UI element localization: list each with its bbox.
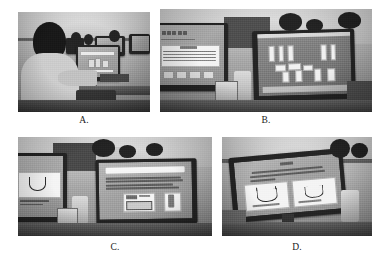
panel-d-caption: D. bbox=[222, 242, 372, 252]
screen-right bbox=[99, 161, 193, 220]
panel-b bbox=[160, 9, 372, 112]
screen-left bbox=[160, 25, 224, 85]
student-head bbox=[146, 143, 163, 156]
student-head bbox=[306, 19, 323, 31]
figure-grid: A. bbox=[0, 0, 385, 265]
slide-button[interactable] bbox=[189, 71, 200, 79]
u-tube-icon bbox=[29, 177, 47, 192]
student-head bbox=[338, 12, 361, 28]
panel-b-caption: B. bbox=[160, 115, 372, 125]
slide-title-bar bbox=[106, 166, 184, 174]
slide-button[interactable] bbox=[163, 71, 174, 79]
panel-b-photo bbox=[160, 9, 372, 112]
screen-main bbox=[233, 153, 342, 217]
slide-button[interactable] bbox=[203, 71, 214, 79]
panel-a-caption: A. bbox=[18, 115, 150, 125]
slide-button[interactable] bbox=[176, 71, 187, 79]
panel-a bbox=[18, 12, 150, 112]
panel-d-photo bbox=[222, 137, 372, 236]
student-head bbox=[330, 139, 350, 158]
panel-c-caption: C. bbox=[18, 242, 212, 252]
panel-c bbox=[18, 137, 212, 236]
student-head bbox=[92, 139, 115, 157]
student-head bbox=[351, 143, 368, 158]
panel-a-photo bbox=[18, 12, 150, 112]
panel-c-photo bbox=[18, 137, 212, 236]
bottle bbox=[341, 190, 359, 222]
screen-right bbox=[257, 31, 352, 95]
panel-d bbox=[222, 137, 372, 236]
student-head bbox=[119, 145, 136, 158]
student-head bbox=[279, 13, 302, 31]
